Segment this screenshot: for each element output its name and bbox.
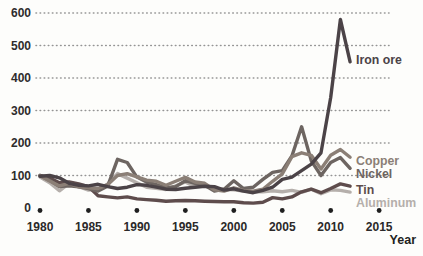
y-tick-label-300: 300 [11, 104, 31, 118]
commodity-price-line-chart: 0100200300400500600198019851990199520002… [0, 0, 423, 256]
x-axis-dot-2010 [328, 208, 333, 213]
x-tick-label-2010: 2010 [317, 220, 344, 234]
tin-label: Tin [356, 183, 374, 197]
y-tick-label-100: 100 [11, 169, 31, 183]
nickel-label: Nickel [356, 167, 392, 181]
chart-canvas: 0100200300400500600198019851990199520002… [0, 0, 423, 256]
x-axis-dot-1990 [135, 208, 140, 213]
x-axis-dot-2005 [280, 208, 285, 213]
x-tick-label-1985: 1985 [75, 220, 102, 234]
iron-ore-label: Iron ore [356, 53, 402, 67]
x-tick-label-2005: 2005 [269, 220, 296, 234]
aluminum-label: Aluminum [356, 196, 416, 210]
x-axis-dot-1995 [183, 208, 188, 213]
year-axis-label: Year [390, 233, 417, 247]
x-tick-label-1980: 1980 [27, 220, 54, 234]
x-tick-label-1990: 1990 [124, 220, 151, 234]
x-axis-dot-1985 [86, 208, 91, 213]
x-axis-dot-1980 [38, 208, 43, 213]
y-tick-label-400: 400 [11, 71, 31, 85]
y-tick-label-600: 600 [11, 6, 31, 20]
y-tick-label-200: 200 [11, 136, 31, 150]
x-tick-label-2015: 2015 [366, 220, 393, 234]
y-tick-label-0: 0 [24, 201, 31, 215]
x-tick-label-1995: 1995 [172, 220, 199, 234]
x-axis-dot-2000 [231, 208, 236, 213]
y-tick-label-500: 500 [11, 39, 31, 53]
copper-label: Copper [356, 154, 399, 168]
x-tick-label-2000: 2000 [220, 220, 247, 234]
